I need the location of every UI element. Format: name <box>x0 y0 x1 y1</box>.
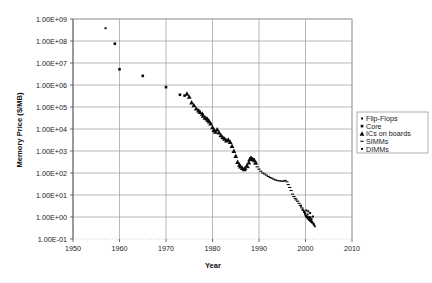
data-point <box>114 42 117 45</box>
y-tick-label: 1.00E+02 <box>36 169 67 178</box>
data-point <box>283 180 286 181</box>
data-point <box>292 196 295 197</box>
x-axis-title: Year <box>205 261 221 270</box>
chart-legend[interactable]: Flip-FlopsCoreICs on boardsSIMMsDIMMs <box>357 112 428 154</box>
legend-marker-small-square-icon <box>361 118 363 120</box>
series-core <box>114 42 186 96</box>
data-point <box>118 68 121 71</box>
data-point <box>249 157 252 158</box>
data-point <box>288 187 291 188</box>
data-point <box>256 166 259 167</box>
data-point <box>296 201 299 202</box>
data-point <box>295 199 298 200</box>
legend-item-dimms[interactable]: DIMMs <box>361 145 389 154</box>
series-simms <box>246 157 306 213</box>
data-points-layer <box>105 27 316 227</box>
data-point <box>300 207 303 208</box>
data-point <box>302 208 304 210</box>
x-tick-label: 1970 <box>158 244 174 253</box>
x-axis-tick-labels: 1950196019701980199020002010 <box>65 244 360 253</box>
data-point <box>261 172 264 173</box>
memory-price-chart: 1.00E+091.00E+081.00E+071.00E+061.00E+05… <box>0 0 432 283</box>
legend-item-label: DIMMs <box>366 145 389 154</box>
data-point <box>230 144 235 148</box>
data-point <box>263 173 266 174</box>
y-tick-label: 1.00E+05 <box>36 103 67 112</box>
x-tick-label: 1990 <box>251 244 267 253</box>
y-axis-tick-labels: 1.00E+091.00E+081.00E+071.00E+061.00E+05… <box>36 15 67 244</box>
x-tick-label: 1960 <box>112 244 128 253</box>
data-point <box>265 175 268 176</box>
data-point <box>246 167 249 168</box>
data-point <box>105 27 107 29</box>
data-point <box>285 181 288 182</box>
data-point <box>305 209 307 211</box>
data-point <box>312 216 314 218</box>
data-point <box>287 184 290 185</box>
data-point <box>291 194 294 195</box>
data-point <box>254 163 257 164</box>
y-tick-label: 1.00E+07 <box>36 59 67 68</box>
series-ics-on-boards <box>185 91 259 171</box>
y-tick-label: 1.00E+00 <box>36 213 67 222</box>
data-point <box>297 203 300 204</box>
y-tick-label: 1.00E+09 <box>36 15 67 24</box>
data-point <box>179 93 182 96</box>
data-point <box>311 218 313 220</box>
y-tick-label: 1.00E+01 <box>36 191 67 200</box>
data-point <box>307 213 309 215</box>
y-axis-title: Memory Price ($/MB) <box>15 92 24 168</box>
data-point <box>307 210 309 212</box>
axis-tickmarks <box>70 19 352 242</box>
data-point <box>141 75 144 78</box>
legend-marker-small-square-icon <box>361 148 363 150</box>
data-point <box>257 169 260 170</box>
y-tick-label: 1.00E+03 <box>36 147 67 156</box>
data-point <box>303 211 305 213</box>
x-tick-label: 2010 <box>344 244 360 253</box>
data-point <box>300 205 302 207</box>
data-point <box>233 153 238 157</box>
data-point <box>189 100 194 104</box>
data-point <box>270 178 273 179</box>
x-tick-label: 1950 <box>65 244 81 253</box>
data-point <box>185 91 190 95</box>
series-flip-flops <box>105 27 107 29</box>
data-point <box>294 198 297 199</box>
data-point <box>259 171 262 172</box>
x-tick-label: 2000 <box>298 244 314 253</box>
legend-marker-square-icon <box>361 125 364 128</box>
y-tick-label: 1.00E+08 <box>36 37 67 46</box>
data-point <box>165 86 168 89</box>
chart-canvas: 1.00E+091.00E+081.00E+071.00E+061.00E+05… <box>0 0 432 283</box>
legend-marker-dash-icon <box>360 141 363 142</box>
y-tick-label: 1.00E+06 <box>36 81 67 90</box>
data-point <box>289 190 292 191</box>
data-point <box>314 225 316 227</box>
x-tick-label: 1980 <box>205 244 221 253</box>
data-point <box>252 158 255 159</box>
y-tick-label: 1.00E-01 <box>38 235 67 244</box>
y-tick-label: 1.00E+04 <box>36 125 67 134</box>
data-point <box>309 212 311 214</box>
data-point <box>267 176 270 177</box>
